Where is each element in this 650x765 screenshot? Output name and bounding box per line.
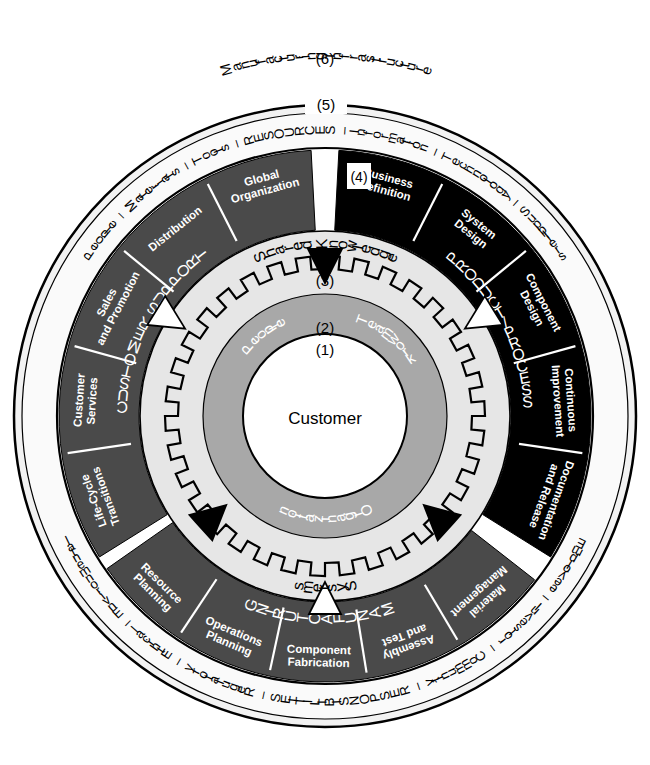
marker-3: (3) — [316, 272, 334, 289]
svg-text:e: e — [418, 64, 436, 76]
svg-text:Fabrication: Fabrication — [287, 656, 349, 670]
marker-5: (5) — [317, 96, 335, 113]
diagram-canvas: (6) Manufacturing Infrastructure (5) Peo… — [0, 0, 650, 765]
center-label-customer: Customer — [288, 409, 362, 428]
marker-2: (2) — [316, 319, 334, 336]
marker-1: (1) — [316, 341, 334, 358]
svg-text:Component: Component — [287, 643, 351, 657]
svg-text:S: S — [522, 393, 534, 411]
marker-4: (4) — [350, 169, 367, 185]
manufacturing-infrastructure-wheel: (6) Manufacturing Infrastructure (5) Peo… — [0, 0, 650, 765]
